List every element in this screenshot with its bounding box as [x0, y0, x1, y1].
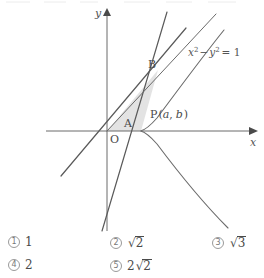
option-5-value: 2√2 — [127, 259, 152, 272]
figure-canvas: x y O A B P(a,b) x2−y2= 1 — [0, 0, 264, 232]
option-2-number: 2 — [110, 237, 122, 249]
shaded-triangle-region — [107, 70, 158, 131]
origin-label: O — [110, 133, 119, 146]
option-1-number: 1 — [8, 236, 20, 248]
option-2[interactable]: 2 √2 — [110, 236, 144, 249]
option-5-number: 5 — [110, 260, 122, 272]
option-5-coefficient: 2 — [127, 259, 135, 273]
option-3-radicand: 3 — [237, 236, 247, 249]
option-2-radicand: 2 — [135, 236, 145, 249]
option-3-value: √3 — [229, 236, 246, 249]
svg-text:P(a,b): P(a,b) — [150, 108, 188, 121]
point-p-coord-b: b — [176, 108, 183, 121]
point-p-close-paren: ) — [184, 108, 188, 121]
option-1-value: 1 — [25, 236, 33, 248]
option-3[interactable]: 3 √3 — [212, 236, 246, 249]
x-axis-label: x — [250, 136, 257, 149]
point-b-label: B — [148, 58, 156, 71]
option-5[interactable]: 5 2√2 — [110, 259, 152, 272]
svg-text:x2−y2= 1: x2−y2= 1 — [188, 46, 240, 58]
option-2-value: √2 — [127, 236, 144, 249]
y-axis — [103, 8, 111, 231]
eq-minus: − — [199, 46, 208, 58]
point-p-letter: P — [150, 108, 158, 121]
point-p-comma: , — [169, 108, 173, 121]
answer-options-row-1: 1 1 2 √2 3 √3 — [0, 232, 264, 255]
point-a-label: A — [123, 117, 133, 130]
option-4[interactable]: 4 2 — [8, 259, 33, 271]
option-4-number: 4 — [8, 259, 20, 271]
hyperbola-equation-label: x2−y2= 1 — [188, 46, 240, 58]
point-p-label: P(a,b) — [150, 108, 188, 121]
answer-options-list: 1 1 2 √2 3 √3 4 2 5 2√2 — [0, 232, 264, 278]
y-axis-label: y — [94, 7, 102, 20]
option-5-radicand: 2 — [142, 259, 152, 272]
x-axis — [46, 127, 258, 135]
line-through-origin-OB — [61, 28, 186, 176]
eq-y-exponent: 2 — [215, 46, 219, 54]
answer-options-row-2: 4 2 5 2√2 — [0, 255, 264, 278]
option-4-value: 2 — [25, 259, 33, 271]
math-figure: x y O A B P(a,b) x2−y2= 1 — [0, 0, 264, 232]
eq-x-exponent: 2 — [194, 46, 198, 54]
option-3-number: 3 — [212, 237, 224, 249]
eq-equals-one: = 1 — [222, 46, 241, 58]
tangent-line-at-P — [102, 12, 167, 231]
option-1[interactable]: 1 1 — [8, 236, 33, 248]
